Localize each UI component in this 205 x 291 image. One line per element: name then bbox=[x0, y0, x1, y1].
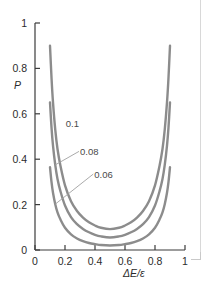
y-tick-label: 0.2 bbox=[0, 200, 27, 211]
x-axis-title: ΔE/ε bbox=[123, 268, 145, 279]
y-tick-label: 0 bbox=[0, 245, 27, 256]
curve-label-0-1: 0.1 bbox=[66, 119, 79, 129]
y-axis-title: P bbox=[14, 80, 21, 91]
chart-axes bbox=[35, 23, 185, 250]
y-tick-label: 0.4 bbox=[0, 154, 27, 165]
curve-label-0-08: 0.08 bbox=[80, 147, 99, 157]
chart-plot-area bbox=[0, 0, 205, 291]
page-corner-mark bbox=[191, 252, 201, 260]
page-edge-line bbox=[200, 0, 201, 252]
chart-curves bbox=[50, 46, 170, 246]
curve-label-0-06: 0.06 bbox=[94, 170, 113, 180]
y-tick-label: 1 bbox=[0, 18, 27, 29]
y-tick-label: 0.8 bbox=[0, 63, 27, 74]
curve-0-1 bbox=[50, 46, 170, 229]
chart-figure: 00.20.40.60.81 00.20.40.60.81 0.10.080.0… bbox=[0, 0, 205, 291]
y-tick-label: 0.6 bbox=[0, 109, 27, 120]
